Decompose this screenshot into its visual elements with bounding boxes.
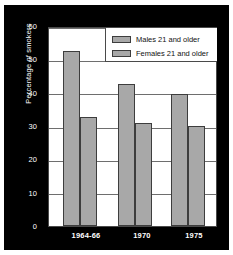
y-tick-label-0: 0	[17, 223, 37, 231]
bar-females-1975	[188, 126, 205, 226]
legend-label-males: Males 21 and older	[136, 36, 200, 44]
y-tick-label-60: 60	[17, 23, 37, 31]
legend-entry-females: Females 21 and older	[112, 48, 209, 59]
legend-swatch-females	[112, 50, 131, 57]
x-tick-label-1964-66: 1964-66	[58, 231, 114, 240]
legend-entry-males: Males 21 and older	[112, 34, 200, 45]
y-tick-label-10: 10	[17, 190, 37, 198]
legend-label-females: Females 21 and older	[136, 50, 209, 58]
bar-males-1970	[118, 84, 135, 226]
bar-males-1964-66	[63, 51, 80, 226]
y-axis-title: Percentage of smokers	[24, 0, 33, 134]
y-tick-label-40: 40	[17, 90, 37, 98]
figure-root: Percentage of smokers 60 50 40 30 20 10 …	[0, 0, 233, 255]
y-tick-label-30: 30	[17, 123, 37, 131]
y-tick-label-20: 20	[17, 156, 37, 164]
bar-females-1964-66	[80, 117, 97, 226]
plot-area: Males 21 and older Females 21 and older	[48, 27, 217, 227]
x-tick-label-1970: 1970	[114, 231, 170, 240]
y-tick-label-50: 50	[17, 56, 37, 64]
bar-females-1970	[135, 123, 152, 226]
chart-legend: Males 21 and older Females 21 and older	[105, 28, 217, 62]
chart-frame: Percentage of smokers 60 50 40 30 20 10 …	[4, 5, 229, 250]
bar-males-1975	[171, 94, 188, 226]
x-tick-label-1975: 1975	[168, 231, 220, 240]
legend-swatch-males	[112, 36, 131, 43]
